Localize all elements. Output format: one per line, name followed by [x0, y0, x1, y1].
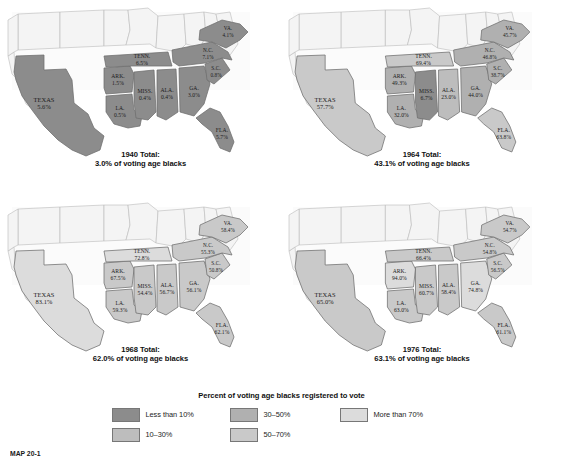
non-south-state [299, 207, 341, 245]
state-abbr: FLA. [216, 322, 229, 328]
state-label-miss: MISS.54.4% [138, 283, 153, 296]
state-label-ala: ALA.23.0% [441, 87, 456, 100]
state-abbr: TENN. [134, 248, 151, 254]
non-south-state [438, 14, 468, 52]
state-abbr: FLA. [216, 127, 229, 133]
figure-caption: MAP 20-1 [10, 450, 550, 457]
non-south-state [341, 10, 385, 48]
state-abbr: GA. [189, 280, 199, 286]
state-abbr: VA. [506, 220, 514, 226]
maps-grid: TEXAS5.6%ARK.1.5%LA.0.5%MISS.0.4%ALA.0.4… [0, 0, 563, 390]
legend-swatch-gt70 [340, 408, 368, 422]
state-value: 0.4% [161, 94, 173, 100]
state-abbr: N.C. [203, 47, 213, 53]
panel-total-1964: 1964 Total: 43.1% of voting age blacks [281, 150, 563, 168]
legend: Percent of voting age blacks registered … [0, 390, 563, 446]
non-south-state [299, 12, 341, 50]
state-abbr: GA. [189, 85, 199, 91]
map-panel-1976: TEXAS65.0%ARK.94.0%LA.63.0%MISS.60.7%ALA… [281, 195, 563, 390]
caption-label: MAP 20-1 [10, 450, 40, 457]
state-value: 65.0% [317, 298, 335, 305]
state-value: 49.3% [392, 80, 407, 86]
state-value: 56.1% [187, 287, 202, 293]
state-value: 5.7% [216, 134, 228, 140]
state-label-fla: FLA.61.1% [496, 322, 511, 335]
state-label-texas: TEXAS57.7% [315, 96, 336, 110]
legend-label-gt70: More than 70% [374, 410, 423, 419]
non-south-state [126, 8, 158, 48]
total-line-2: 63.1% of voting age blacks [281, 354, 563, 363]
state-value: 56.5% [491, 267, 505, 273]
state-value: 0.8% [210, 72, 222, 78]
state-abbr: ALA. [160, 87, 174, 93]
map-figure: TEXAS5.6%ARK.1.5%LA.0.5%MISS.0.4%ALA.0.4… [0, 0, 563, 460]
state-abbr: MISS. [419, 88, 434, 94]
state-label-miss: MISS.60.7% [419, 283, 434, 296]
state-value: 57.7% [317, 103, 335, 110]
state-label-texas: TEXAS65.0% [315, 291, 336, 305]
total-line-1: 1968 Total: [0, 345, 281, 354]
state-value: 55.3% [201, 249, 215, 255]
non-south-state [104, 205, 130, 241]
non-south-state [18, 207, 60, 245]
state-value: 0.5% [114, 112, 126, 118]
non-south-state [438, 209, 468, 247]
non-south-state [289, 14, 299, 56]
state-abbr: S.C. [493, 260, 502, 266]
state-value: 0.4% [139, 95, 151, 101]
state-label-nc: N.C.7.1% [202, 47, 214, 60]
state-abbr: LA. [115, 105, 125, 111]
map-panel-1968: TEXAS83.1%ARK.67.5%LA.59.3%MISS.54.4%ALA… [0, 195, 281, 390]
state-value: 62.1% [215, 329, 230, 335]
legend-item-gt70: More than 70% [340, 407, 423, 422]
state-value: 4.1% [222, 32, 234, 38]
state-abbr: ARK. [393, 73, 407, 79]
state-value: 74.8% [468, 287, 483, 293]
non-south-state [156, 14, 186, 52]
state-label-fla: FLA.5.7% [216, 127, 229, 140]
non-south-state [8, 14, 18, 56]
panel-total-1976: 1976 Total: 63.1% of voting age blacks [281, 345, 563, 363]
state-value: 69.4% [416, 60, 431, 66]
state-value: 3.0% [188, 92, 200, 98]
state-value: 56.7% [160, 289, 175, 295]
non-south-state [407, 8, 439, 48]
legend-label-lt10: Less than 10% [146, 410, 194, 419]
state-label-fla: FLA.63.8% [496, 127, 511, 140]
non-south-state [104, 10, 130, 46]
state-value: 54.8% [483, 249, 497, 255]
state-abbr: ARK. [111, 268, 125, 274]
legend-item-lt10: Less than 10% [112, 407, 194, 422]
state-abbr: N.C. [485, 47, 495, 53]
state-abbr: S.C. [493, 65, 502, 71]
state-abbr: GA. [471, 280, 481, 286]
total-line-2: 62.0% of voting age blacks [0, 354, 281, 363]
panel-total-1968: 1968 Total: 62.0% of voting age blacks [0, 345, 281, 363]
state-value: 63.8% [496, 134, 511, 140]
state-abbr: FLA. [498, 127, 511, 133]
legend-swatch-30-50 [230, 408, 258, 422]
state-abbr: MISS. [419, 283, 434, 289]
state-label-miss: MISS.6.7% [419, 88, 434, 101]
non-south-state [289, 209, 299, 251]
legend-title: Percent of voting age blacks registered … [0, 390, 563, 400]
state-value: 72.8% [135, 255, 150, 261]
state-abbr: ARK. [393, 268, 407, 274]
state-abbr: MISS. [138, 88, 153, 94]
state-value: 7.1% [202, 54, 214, 60]
state-value: 83.1% [36, 298, 54, 305]
non-south-state [156, 209, 186, 247]
legend-label-10-30: 10–30% [146, 430, 173, 439]
state-label-miss: MISS.0.4% [138, 88, 153, 101]
state-label-fla: FLA.62.1% [215, 322, 230, 335]
total-line-1: 1940 Total: [0, 150, 281, 159]
total-line-1: 1964 Total: [281, 150, 563, 159]
state-value: 1.5% [112, 80, 124, 86]
state-value: 63.0% [394, 307, 409, 313]
state-abbr: TENN. [134, 53, 151, 59]
state-label-la: LA.0.5% [114, 105, 126, 118]
state-value: 45.7% [503, 32, 517, 38]
legend-item-50-70: 50–70% [230, 427, 291, 442]
state-label-ala: ALA.0.4% [160, 87, 174, 100]
state-abbr: N.C. [485, 242, 495, 248]
